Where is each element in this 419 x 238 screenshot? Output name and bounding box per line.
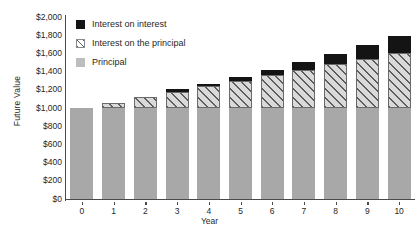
- y-axis-tick-label: $200: [22, 176, 62, 185]
- x-axis-tick-mark: [209, 202, 210, 205]
- bar-segment-interest-on-principal: [102, 103, 125, 108]
- bar-segment-principal: [324, 108, 347, 199]
- bar-year-0: [70, 108, 93, 199]
- x-axis-tick-mark: [336, 202, 337, 205]
- bar-segment-interest-on-principal: [388, 53, 411, 108]
- y-axis-tick-label: $1,600: [22, 49, 62, 58]
- y-axis-tick-label: $1,400: [22, 67, 62, 76]
- x-axis-tick-mark: [114, 202, 115, 205]
- x-axis-tick-labels: 012345678910: [66, 202, 415, 216]
- bar-segment-principal: [166, 108, 189, 199]
- bar-segment-principal: [388, 108, 411, 199]
- bar-year-5: [229, 77, 252, 199]
- x-axis-tick-label: 4: [194, 206, 224, 216]
- bar-segment-interest-on-interest: [324, 54, 347, 64]
- legend-item: Interest on the principal: [76, 35, 186, 51]
- chart-legend: Interest on interestInterest on the prin…: [76, 16, 186, 73]
- bar-segment-principal: [356, 108, 379, 199]
- x-axis-line: [65, 199, 415, 200]
- bar-segment-interest-on-interest: [229, 77, 252, 80]
- compound-interest-chart: Future Value $0$200$400$600$800$1,000$1,…: [0, 0, 419, 238]
- bar-segment-interest-on-principal: [166, 92, 189, 108]
- bar-segment-interest-on-principal: [134, 97, 157, 108]
- legend-item-label: Principal: [92, 57, 127, 67]
- x-axis-tick-label: 7: [289, 206, 319, 216]
- y-axis-tick-label: $1,800: [22, 31, 62, 40]
- bar-segment-interest-on-principal: [229, 81, 252, 108]
- bar-segment-interest-on-principal: [356, 59, 379, 108]
- y-axis-tick-label: $0: [22, 195, 62, 204]
- bar-segment-interest-on-interest: [166, 89, 189, 91]
- y-axis-tick-label: $400: [22, 158, 62, 167]
- legend-item-label: Interest on interest: [92, 19, 167, 29]
- x-axis-tick-label: 5: [226, 206, 256, 216]
- bar-segment-interest-on-principal: [261, 75, 284, 108]
- bar-year-1: [102, 103, 125, 199]
- y-axis-tick-label: $1,000: [22, 104, 62, 113]
- x-axis-tick-label: 6: [257, 206, 287, 216]
- hatched-square-icon: [76, 39, 85, 48]
- bar-segment-interest-on-interest: [261, 70, 284, 75]
- x-axis-tick-label: 2: [130, 206, 160, 216]
- bar-segment-interest-on-principal: [197, 86, 220, 108]
- bar-year-3: [166, 91, 189, 199]
- legend-item: Interest on interest: [76, 16, 186, 32]
- x-axis-tick-label: 3: [162, 206, 192, 216]
- bar-segment-interest-on-principal: [292, 70, 315, 108]
- y-axis-tick-label: $800: [22, 122, 62, 131]
- black-square-icon: [76, 20, 85, 29]
- bar-year-8: [324, 54, 347, 199]
- bar-year-6: [261, 70, 284, 199]
- gray-square-icon: [76, 58, 85, 67]
- x-axis-tick-label: 9: [352, 206, 382, 216]
- bar-year-7: [292, 62, 315, 199]
- y-axis-tick-label: $1,200: [22, 85, 62, 94]
- bar-segment-principal: [134, 108, 157, 199]
- x-axis-title: Year: [0, 216, 419, 226]
- bar-year-9: [356, 45, 379, 199]
- x-axis-tick-mark: [304, 202, 305, 205]
- x-axis-tick-mark: [82, 202, 83, 205]
- bar-segment-principal: [229, 108, 252, 199]
- bar-segment-principal: [261, 108, 284, 199]
- y-axis-tick-label: $2,000: [22, 13, 62, 22]
- bar-segment-interest-on-interest: [388, 36, 411, 54]
- bar-segment-principal: [70, 108, 93, 199]
- bar-segment-principal: [197, 108, 220, 199]
- y-axis-tick-label: $600: [22, 140, 62, 149]
- bar-year-4: [197, 84, 220, 199]
- x-axis-tick-label: 10: [384, 206, 414, 216]
- legend-item-label: Interest on the principal: [92, 38, 186, 48]
- x-axis-tick-label: 8: [321, 206, 351, 216]
- x-axis-tick-mark: [145, 202, 146, 205]
- bar-segment-interest-on-principal: [324, 64, 347, 108]
- bar-segment-principal: [102, 108, 125, 199]
- x-axis-tick-mark: [177, 202, 178, 205]
- legend-item: Principal: [76, 54, 186, 70]
- bar-year-10: [388, 36, 411, 199]
- x-axis-tick-mark: [367, 202, 368, 205]
- bar-segment-principal: [292, 108, 315, 199]
- bar-segment-interest-on-interest: [356, 45, 379, 59]
- y-axis-tick-labels: $0$200$400$600$800$1,000$1,200$1,400$1,6…: [18, 0, 62, 238]
- x-axis-tick-label: 1: [99, 206, 129, 216]
- x-axis-tick-mark: [399, 202, 400, 205]
- bar-year-2: [134, 97, 157, 199]
- x-axis-tick-label: 0: [67, 206, 97, 216]
- bar-segment-interest-on-interest: [197, 84, 220, 86]
- x-axis-tick-mark: [272, 202, 273, 205]
- x-axis-tick-mark: [241, 202, 242, 205]
- bar-segment-interest-on-interest: [292, 62, 315, 70]
